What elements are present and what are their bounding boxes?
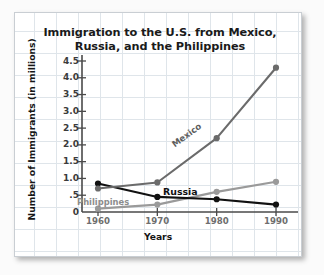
data-point-mexico-1960	[95, 185, 101, 191]
data-point-philippines-1990	[273, 179, 279, 185]
data-point-russia-1990	[273, 202, 279, 208]
data-point-philippines-1970	[154, 202, 160, 208]
data-point-philippines-1980	[214, 189, 220, 195]
data-point-mexico-1990	[273, 65, 279, 71]
data-point-russia-1980	[214, 196, 220, 202]
series-label-russia: Russia	[163, 186, 198, 197]
data-point-russia-1970	[154, 194, 160, 200]
data-point-mexico-1980	[214, 135, 220, 141]
chart-container: Immigration to the U.S. from Mexico, Rus…	[0, 0, 324, 275]
series-label-philippines: Philippines	[77, 197, 129, 207]
plot-area	[15, 13, 301, 256]
data-point-mexico-1970	[154, 179, 160, 185]
graph-paper-card: Immigration to the U.S. from Mexico, Rus…	[14, 12, 302, 257]
